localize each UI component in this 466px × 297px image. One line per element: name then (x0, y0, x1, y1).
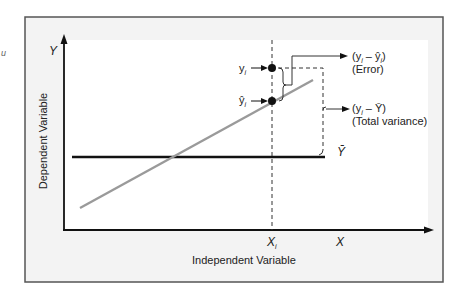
error-formula-part: (y (352, 50, 361, 62)
observed-symbol: y (239, 62, 245, 74)
predicted-subscript: i (245, 101, 247, 108)
total-formula-part: – Ȳ) (363, 102, 386, 114)
predicted-symbol: ŷ (239, 94, 245, 106)
x-axis-title: Independent Variable (192, 254, 296, 266)
xi-symbol: X (267, 235, 275, 249)
xi-label: Xi (267, 236, 277, 250)
error-formula-part: ) (382, 50, 386, 62)
regression-diagram (0, 0, 466, 297)
error-formula-part: – ŷ (363, 50, 381, 62)
predicted-label: ŷi (239, 94, 246, 108)
total-variance-name: (Total variance) (352, 115, 427, 127)
predicted-point (268, 97, 276, 105)
corner-mark: u (1, 47, 6, 59)
y-axis-symbol: Y (49, 45, 57, 57)
error-name: (Error) (352, 63, 384, 75)
error-formula: (yi – ŷi) (352, 50, 386, 64)
x-axis-symbol: X (336, 236, 344, 248)
observed-point (268, 64, 276, 72)
mean-label: Ȳ (337, 146, 345, 158)
total-variance-formula: (yi – Ȳ) (352, 102, 386, 116)
total-formula-part: (y (352, 102, 361, 114)
y-axis-title: Dependent Variable (37, 86, 49, 196)
observed-label: yi (239, 62, 246, 76)
observed-subscript: i (245, 69, 247, 76)
xi-subscript: i (275, 243, 277, 250)
